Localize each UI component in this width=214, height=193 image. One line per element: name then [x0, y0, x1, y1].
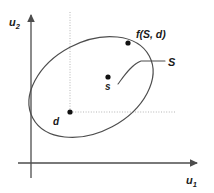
- x-axis-label-text: u: [186, 174, 193, 186]
- point-f-label: f(S, d): [136, 29, 166, 40]
- y-axis-label-subscript: 2: [16, 22, 20, 31]
- bargaining-set-diagram: u2 u1 s d S f(S, d): [0, 0, 214, 193]
- point-s-label: s: [105, 82, 111, 92]
- x-axis-label: u1: [186, 175, 197, 186]
- point-d-label: d: [53, 117, 59, 127]
- point-s-marker: [105, 74, 110, 79]
- x-axis-label-subscript: 1: [193, 180, 197, 189]
- diagram-canvas: [0, 0, 214, 193]
- set-s-label: S: [168, 57, 175, 68]
- y-axis-label-text: u: [9, 16, 16, 28]
- point-d-marker: [67, 109, 72, 114]
- y-axis-label: u2: [9, 17, 20, 28]
- set-label-leader-line: [118, 61, 165, 84]
- point-f-marker: [125, 40, 130, 45]
